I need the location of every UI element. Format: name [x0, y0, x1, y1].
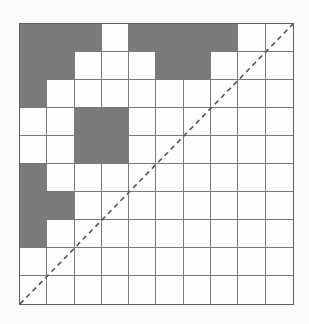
empty-cell	[266, 24, 293, 52]
empty-cell	[184, 248, 211, 276]
empty-cell	[266, 108, 293, 136]
empty-cell	[102, 276, 129, 304]
empty-cell	[129, 52, 156, 80]
filled-cell	[156, 24, 183, 52]
empty-cell	[156, 276, 183, 304]
empty-cell	[238, 80, 265, 108]
empty-cell	[156, 164, 183, 192]
empty-cell	[75, 164, 102, 192]
filled-cell	[47, 52, 74, 80]
empty-cell	[266, 220, 293, 248]
empty-cell	[266, 276, 293, 304]
empty-cell	[102, 52, 129, 80]
empty-cell	[211, 192, 238, 220]
filled-cell	[20, 24, 47, 52]
empty-cell	[211, 220, 238, 248]
empty-cell	[47, 136, 74, 164]
filled-cell	[129, 24, 156, 52]
empty-cell	[102, 164, 129, 192]
empty-cell	[211, 248, 238, 276]
filled-cell	[20, 52, 47, 80]
empty-cell	[238, 108, 265, 136]
filled-cell	[75, 108, 102, 136]
filled-cell	[184, 24, 211, 52]
empty-cell	[184, 164, 211, 192]
empty-cell	[266, 248, 293, 276]
cell-grid	[19, 23, 294, 305]
empty-cell	[75, 192, 102, 220]
empty-cell	[20, 248, 47, 276]
empty-cell	[184, 276, 211, 304]
grid-diagram	[19, 23, 294, 305]
empty-cell	[238, 136, 265, 164]
empty-cell	[129, 248, 156, 276]
filled-cell	[184, 52, 211, 80]
empty-cell	[129, 276, 156, 304]
empty-cell	[156, 136, 183, 164]
empty-cell	[238, 192, 265, 220]
empty-cell	[211, 276, 238, 304]
empty-cell	[211, 164, 238, 192]
filled-cell	[20, 220, 47, 248]
empty-cell	[102, 220, 129, 248]
empty-cell	[238, 220, 265, 248]
empty-cell	[238, 276, 265, 304]
empty-cell	[184, 192, 211, 220]
filled-cell	[102, 136, 129, 164]
empty-cell	[156, 220, 183, 248]
empty-cell	[75, 52, 102, 80]
empty-cell	[184, 80, 211, 108]
empty-cell	[266, 52, 293, 80]
empty-cell	[47, 220, 74, 248]
empty-cell	[266, 80, 293, 108]
filled-cell	[75, 24, 102, 52]
empty-cell	[75, 248, 102, 276]
empty-cell	[129, 136, 156, 164]
empty-cell	[211, 108, 238, 136]
empty-cell	[211, 80, 238, 108]
empty-cell	[238, 164, 265, 192]
filled-cell	[20, 192, 47, 220]
empty-cell	[184, 108, 211, 136]
empty-cell	[184, 136, 211, 164]
empty-cell	[102, 24, 129, 52]
filled-cell	[47, 24, 74, 52]
empty-cell	[129, 80, 156, 108]
empty-cell	[47, 248, 74, 276]
empty-cell	[47, 164, 74, 192]
empty-cell	[75, 220, 102, 248]
empty-cell	[156, 108, 183, 136]
empty-cell	[156, 248, 183, 276]
empty-cell	[156, 80, 183, 108]
empty-cell	[129, 108, 156, 136]
filled-cell	[20, 80, 47, 108]
empty-cell	[47, 276, 74, 304]
filled-cell	[75, 136, 102, 164]
empty-cell	[102, 80, 129, 108]
empty-cell	[75, 276, 102, 304]
filled-cell	[211, 24, 238, 52]
empty-cell	[20, 136, 47, 164]
filled-cell	[47, 192, 74, 220]
empty-cell	[238, 248, 265, 276]
empty-cell	[156, 192, 183, 220]
filled-cell	[102, 108, 129, 136]
empty-cell	[20, 276, 47, 304]
empty-cell	[211, 52, 238, 80]
empty-cell	[102, 192, 129, 220]
empty-cell	[238, 52, 265, 80]
filled-cell	[20, 164, 47, 192]
empty-cell	[184, 220, 211, 248]
empty-cell	[238, 24, 265, 52]
empty-cell	[211, 136, 238, 164]
empty-cell	[129, 220, 156, 248]
empty-cell	[266, 164, 293, 192]
filled-cell	[156, 52, 183, 80]
empty-cell	[129, 164, 156, 192]
empty-cell	[47, 108, 74, 136]
empty-cell	[266, 192, 293, 220]
empty-cell	[102, 248, 129, 276]
empty-cell	[75, 80, 102, 108]
empty-cell	[20, 108, 47, 136]
empty-cell	[266, 136, 293, 164]
